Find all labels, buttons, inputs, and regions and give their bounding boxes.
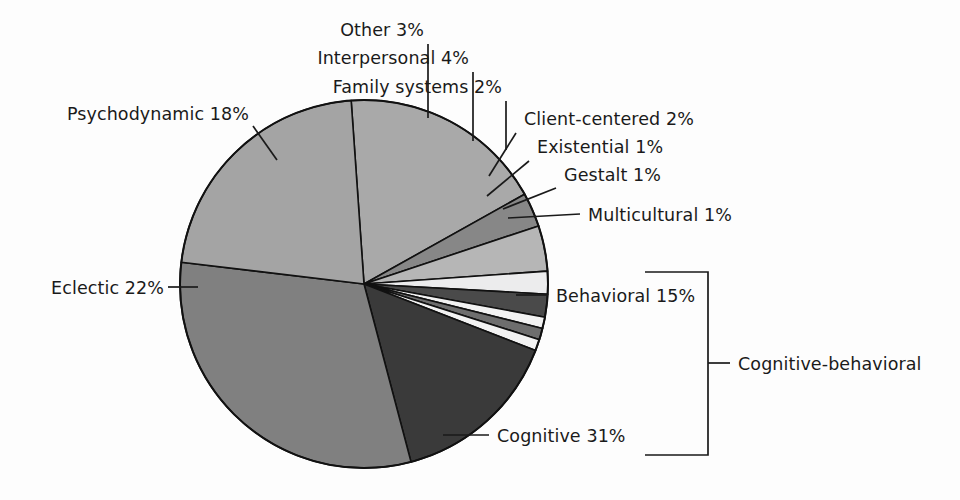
label-cognitive-behavioral: Cognitive-behavioral [738,354,922,374]
label-interpersonal: Interpersonal 4% [317,48,469,68]
label-client-centered: Client-centered 2% [524,109,694,129]
label-cognitive: Cognitive 31% [497,426,626,446]
label-gestalt: Gestalt 1% [564,165,661,185]
label-behavioral: Behavioral 15% [556,286,695,306]
label-family-systems: Family systems 2% [333,77,502,97]
label-psychodynamic: Psychodynamic 18% [67,104,249,124]
label-other: Other 3% [340,20,424,40]
pie-slice-eclectic[interactable] [181,100,364,284]
pie-chart-svg: Other 3% Interpersonal 4% Family systems… [0,0,960,500]
label-existential: Existential 1% [537,137,663,157]
pie-chart-figure: Other 3% Interpersonal 4% Family systems… [0,0,960,500]
pie-slices-group [180,100,548,468]
label-multicultural: Multicultural 1% [588,205,732,225]
label-eclectic: Eclectic 22% [51,278,164,298]
